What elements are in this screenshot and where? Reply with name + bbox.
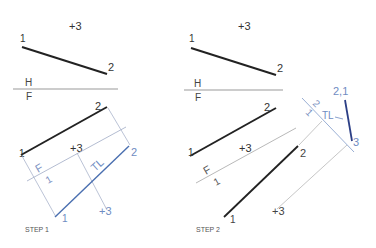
step2-top-p1: 1 [189, 33, 195, 44]
step1-front-p1: 1 [19, 148, 25, 159]
step2-proj-line-12 [299, 121, 322, 145]
step1-panel: +3 1 2 H F 2 1 +3 F 1 2 1 +3 TL STEP 1 [13, 20, 137, 233]
step2-f1-fold-line [196, 128, 296, 183]
step2-top-p2: 2 [277, 62, 283, 74]
step1-aux-p2: 2 [131, 146, 137, 158]
step2-caption: STEP 2 [196, 226, 220, 233]
step2-point-view-21: 2,1 [333, 85, 348, 97]
step2-front-p1: 1 [188, 147, 194, 158]
step1-proj-line-2 [108, 108, 130, 145]
step1-aux-fold-f: F [33, 161, 45, 175]
step1-fold-f: F [26, 91, 32, 102]
step2-point-view-3: 3 [353, 136, 359, 148]
step2-true-length-line [345, 100, 352, 141]
step2-aux-p1: 1 [230, 214, 236, 225]
step1-fold-h: H [25, 77, 32, 88]
step2-top-line [191, 48, 276, 75]
step1-front-line [21, 107, 107, 155]
step2-proj-line-3 [277, 145, 347, 209]
step2-front-point3: +3 [239, 142, 252, 154]
descriptive-geometry-diagram: +3 1 2 H F 2 1 +3 F 1 2 1 +3 TL STEP 1 +… [0, 0, 376, 248]
step1-true-length-line [55, 146, 129, 217]
step1-top-line [22, 47, 107, 74]
step2-aux-point3: +3 [272, 205, 285, 217]
step2-tl-label: TL [322, 110, 334, 121]
step2-tl-leader [335, 117, 343, 119]
step2-aux-line [224, 146, 298, 217]
step1-caption: STEP 1 [25, 226, 49, 233]
step1-top-point3: +3 [69, 20, 82, 32]
step1-top-p1: 1 [20, 33, 26, 44]
step2-aux-fold-1: 1 [212, 175, 223, 188]
step1-aux-p1: 1 [62, 213, 68, 224]
step2-panel: +3 1 2 H F 2 1 +3 F 1 2 1 +3 1 2 2,1 3 T… [184, 20, 359, 233]
step2-fold-h: H [194, 78, 201, 89]
step2-top-point3: +3 [238, 20, 251, 32]
step2-fold-f: F [195, 92, 201, 103]
step1-aux-fold-1: 1 [44, 173, 55, 186]
step1-top-p2: 2 [108, 61, 114, 73]
drawing: +3 1 2 H F 2 1 +3 F 1 2 1 +3 TL STEP 1 +… [0, 0, 376, 248]
step2-aux-p2: 2 [300, 147, 306, 159]
step1-aux-point3: +3 [99, 205, 112, 217]
step2-front-line [190, 108, 276, 156]
